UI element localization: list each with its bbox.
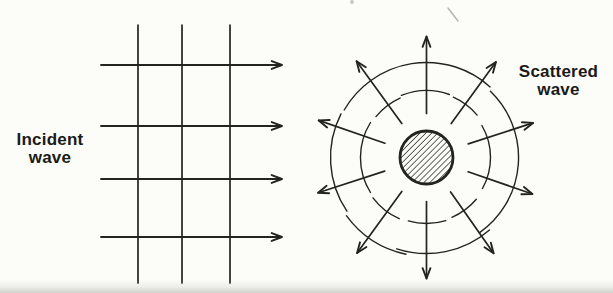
radial-arrow-shaft [451,62,496,124]
inner-wavefront-arc [452,199,476,217]
incident-wave-label-line2: wave [7,149,93,167]
scatterer-obstacle-circle [400,131,453,184]
scattering-diagram-figure: Incident wave Scattered wave [0,0,613,293]
radial-arrow-shaft [357,192,402,254]
radial-arrow-shaft [357,61,402,123]
inner-wavefront-arc [401,90,449,95]
scattered-wave-label: Scattered wave [508,63,609,99]
radial-arrow-shaft [468,123,533,144]
radial-arrow-shaft [451,192,494,253]
incident-wave-label: Incident wave [7,131,93,167]
inner-wavefront-arc [376,98,400,117]
inner-wavefront-arc [360,123,370,193]
radial-arrow-shaft [468,172,532,194]
inner-wavefront-arc [453,97,477,115]
outer-wavefront-arc [397,230,490,254]
scattered-wave-label-line1: Scattered [508,63,609,81]
outer-wavefront-arc [344,62,490,110]
incident-wave-label-line1: Incident [7,131,93,149]
radial-arrow-shaft [319,120,385,143]
scan-smudge-mark [350,0,354,4]
scan-stray-mark [448,8,458,21]
scattered-wave-label-line2: wave [508,81,609,99]
radial-arrow-shaft [318,171,385,193]
outer-wavefront-arc [479,91,518,233]
